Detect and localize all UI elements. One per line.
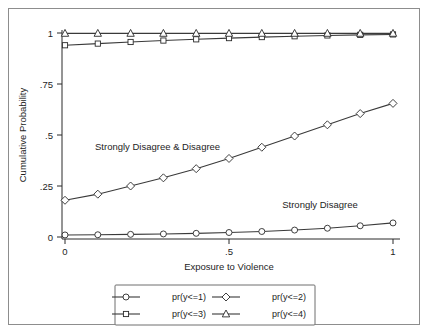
triangle-marker: [160, 29, 167, 36]
y-tick-label-1: .25: [40, 181, 53, 192]
square-marker: [95, 41, 100, 46]
diamond-marker: [258, 143, 266, 151]
x-axis-tick-labels: 0 .5 1: [62, 246, 395, 257]
y-tick-label-2: .5: [45, 130, 53, 141]
circle-marker: [160, 231, 166, 237]
circle-marker: [357, 223, 363, 229]
diamond-marker: [323, 121, 331, 129]
diamond-marker: [94, 190, 102, 198]
diamond-marker: [356, 110, 364, 118]
annotations: Strongly Disagree & Disagree Strongly Di…: [95, 141, 358, 210]
circle-marker: [62, 232, 68, 238]
square-marker: [123, 311, 128, 316]
legend-label: pr(y<=3): [172, 309, 206, 319]
y-tick-label-3: .75: [40, 79, 53, 90]
y-axis-tick-labels: 0 .25 .5 .75 1: [40, 28, 53, 243]
circle-marker: [95, 232, 101, 238]
triangle-marker: [258, 29, 265, 36]
y-axis: 0 .25 .5 .75 1 Cumulative Probability: [17, 28, 62, 243]
triangle-marker: [193, 29, 200, 36]
square-marker: [62, 43, 67, 48]
x-axis: 0 .5 1 Exposure to Violence: [62, 239, 400, 272]
x-tick-label-1: .5: [225, 246, 233, 257]
diamond-marker: [159, 174, 167, 182]
diamond-marker: [225, 154, 233, 162]
triangle-marker: [94, 29, 101, 36]
y-axis-title: Cumulative Probability: [17, 87, 28, 182]
triangle-marker: [291, 29, 298, 36]
circle-marker: [324, 225, 330, 231]
circle-marker: [226, 230, 232, 236]
triangle-marker: [127, 29, 134, 36]
diamond-marker: [291, 132, 299, 140]
circle-marker: [128, 231, 134, 237]
circle-marker: [390, 220, 396, 226]
x-axis-ticks: [65, 239, 393, 244]
square-marker: [128, 39, 133, 44]
legend-label: pr(y<=1): [172, 292, 206, 302]
square-marker: [161, 38, 166, 43]
diamond-marker: [192, 165, 200, 173]
diamond-marker: [389, 99, 397, 107]
x-axis-title: Exposure to Violence: [184, 261, 274, 272]
circle-marker: [292, 227, 298, 233]
y-axis-ticks: [57, 33, 62, 237]
chart-legend: pr(y<=1)pr(y<=2)pr(y<=3)pr(y<=4): [112, 285, 315, 325]
annotation-strongly-disagree-and-disagree: Strongly Disagree & Disagree: [95, 141, 220, 152]
y-tick-label-0: 0: [48, 232, 53, 243]
legend-label: pr(y<=2): [272, 292, 306, 302]
circle-marker: [193, 230, 199, 236]
annotation-strongly-disagree: Strongly Disagree: [282, 199, 358, 210]
triangle-marker: [225, 29, 232, 36]
circle-marker: [259, 228, 265, 234]
chart-figure: 0 .25 .5 .75 1 Cumulative Probability 0 …: [0, 0, 429, 334]
circle-marker: [123, 294, 129, 300]
x-tick-label-0: 0: [62, 246, 67, 257]
series-pr-y-1-: [62, 220, 396, 238]
x-tick-label-2: 1: [390, 246, 395, 257]
cumulative-probability-chart: 0 .25 .5 .75 1 Cumulative Probability 0 …: [0, 0, 429, 334]
square-marker: [194, 37, 199, 42]
diamond-marker: [127, 182, 135, 190]
legend-label: pr(y<=4): [272, 309, 306, 319]
y-tick-label-4: 1: [48, 28, 53, 39]
